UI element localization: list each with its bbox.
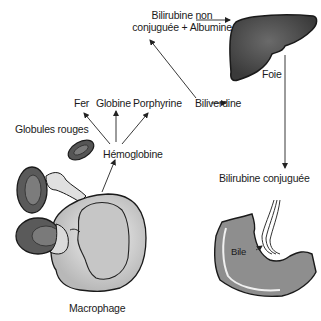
label-globules-rouges: Globules rouges	[15, 123, 88, 135]
label-bilirubine-non-conjuguee: Bilirubine non conjuguée + Albumine	[122, 9, 242, 33]
label-globine: Globine	[96, 97, 131, 109]
label-line-1: Bilirubine non	[122, 9, 242, 21]
label-biliverdine: Biliverdine	[195, 97, 241, 109]
label-bile: Bile	[231, 246, 246, 258]
arrow-hemoglobine-to-porphyrine	[122, 113, 148, 144]
label-foie: Foie	[262, 68, 282, 80]
pseudopod-icon	[46, 173, 86, 202]
diagram-canvas: Bilirubine non conjuguée + Albumine Foie…	[0, 0, 321, 321]
red-blood-cell-icon	[17, 167, 47, 213]
intestine-icon	[215, 200, 316, 296]
arrow-biliverdine-to-bilirubin	[150, 40, 196, 98]
label-bilirubine-conjuguee: Bilirubine conjuguée	[219, 172, 310, 184]
label-macrophage: Macrophage	[69, 302, 125, 314]
red-blood-cell-icon	[65, 136, 97, 164]
diagram-illustration	[0, 0, 321, 321]
arrow-macrophage-to-hemoglobine	[102, 160, 115, 192]
label-hemoglobine: Hémoglobine	[103, 148, 163, 160]
label-porphyrine: Porphyrine	[133, 97, 182, 109]
label-fer: Fer	[74, 97, 89, 109]
label-line-2: conjuguée + Albumine	[122, 21, 242, 33]
